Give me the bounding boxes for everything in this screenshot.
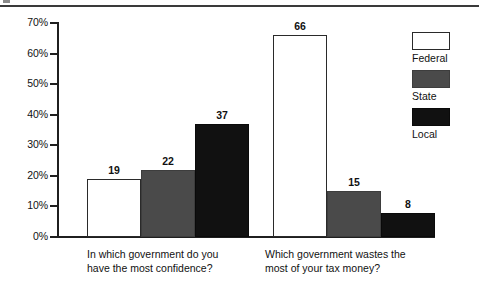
y-axis-tick-label-wrap: 50%	[0, 78, 48, 88]
plot-area: 19223766158	[57, 23, 415, 237]
y-axis-tick-label: 0%	[4, 231, 48, 241]
bar-federal-group2[interactable]	[273, 35, 327, 237]
legend-label: Local	[412, 128, 474, 141]
legend-label: Federal	[412, 52, 474, 65]
legend-item-federal[interactable]: Federal	[412, 32, 474, 65]
crop-mark-icon	[3, 0, 10, 3]
bar-state-group2[interactable]	[327, 191, 381, 237]
bar-local-group1[interactable]	[195, 124, 249, 237]
y-axis-tick-label-wrap: 0%	[0, 231, 48, 241]
legend-item-local[interactable]: Local	[412, 108, 474, 141]
x-axis-group-label-2: Which government wastes the most of your…	[265, 248, 435, 275]
bar-chart: 0%10%20%30%40%50%60%70% 19223766158 In w…	[0, 0, 479, 288]
y-axis-tick-label-wrap: 40%	[0, 109, 48, 119]
y-axis-tick-label: 60%	[4, 48, 48, 58]
y-axis-tick-label: 50%	[4, 78, 48, 88]
legend-swatch-state-icon	[412, 70, 450, 88]
bar-value-label: 15	[327, 177, 381, 188]
y-axis-tick-label-wrap: 60%	[0, 48, 48, 58]
bar-value-label: 37	[195, 110, 249, 121]
y-axis-tick-label: 20%	[4, 170, 48, 180]
y-axis-tick-label: 10%	[4, 200, 48, 210]
y-axis-tick-label: 70%	[4, 17, 48, 27]
legend-swatch-local-icon	[412, 108, 450, 126]
chart-legend: FederalStateLocal	[412, 32, 474, 146]
legend-swatch-federal-icon	[412, 32, 450, 50]
top-divider-rule	[0, 5, 479, 7]
y-axis-tick-label-wrap: 20%	[0, 170, 48, 180]
bar-federal-group1[interactable]	[87, 179, 141, 237]
y-axis-tick-label-wrap: 70%	[0, 17, 48, 27]
bar-local-group2[interactable]	[381, 213, 435, 237]
bar-value-label: 22	[141, 156, 195, 167]
legend-item-state[interactable]: State	[412, 70, 474, 103]
x-axis-group-label-1: In which government do you have the most…	[87, 248, 257, 275]
y-axis-tick-label-wrap: 30%	[0, 139, 48, 149]
bar-value-label: 8	[381, 199, 435, 210]
bar-value-label: 66	[273, 21, 327, 32]
legend-label: State	[412, 90, 474, 103]
y-axis-tick-label: 40%	[4, 109, 48, 119]
y-axis-tick-label-wrap: 10%	[0, 200, 48, 210]
bar-state-group1[interactable]	[141, 170, 195, 237]
y-axis-tick-label: 30%	[4, 139, 48, 149]
bar-value-label: 19	[87, 165, 141, 176]
